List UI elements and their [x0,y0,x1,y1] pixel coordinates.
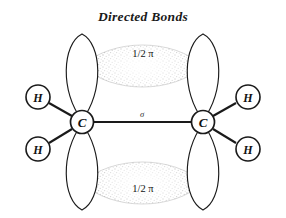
atom-hydrogen-bottom-left-label: H [32,143,43,157]
p-orbital-right-lower-lobe [187,124,219,210]
sigma-bond-label: σ [140,109,145,119]
atom-carbon-right-label: C [199,115,208,130]
atom-hydrogen-top-left-label: H [32,91,43,105]
atom-hydrogen-bottom-right: H [236,137,260,161]
atom-hydrogen-bottom-right-label: H [242,143,253,157]
figure-title: Directed Bonds [0,9,286,25]
atom-hydrogen-top-right-label: H [242,91,253,105]
pi-cloud-bottom-label: 1/2 π [132,183,154,194]
bond-c-right-h-bottom [213,129,236,143]
atom-carbon-left-label: C [78,115,87,130]
bond-c-left-h-bottom [49,129,72,143]
atom-hydrogen-bottom-left: H [26,137,50,161]
p-orbital-right-upper-lobe [187,34,219,120]
p-orbital-left-upper-lobe [66,34,98,120]
atom-hydrogen-top-left: H [26,85,50,109]
atom-hydrogen-top-right: H [236,85,260,109]
bond-c-left-h-top [49,103,72,116]
bond-c-right-h-top [213,103,236,116]
p-orbital-left-lower-lobe [66,124,98,210]
pi-cloud-top-label: 1/2 π [132,48,154,59]
atom-carbon-left: C [71,111,94,134]
directed-bonds-figure: Directed Bonds [0,0,286,218]
atom-carbon-right: C [192,111,215,134]
molecule-diagram: 1/2 π 1/2 π σ [0,0,286,218]
